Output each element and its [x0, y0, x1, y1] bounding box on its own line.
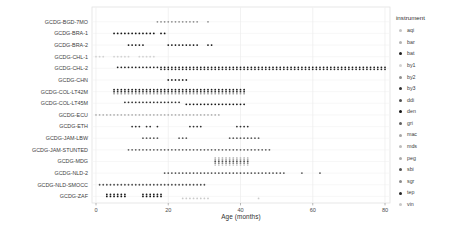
data-point	[247, 68, 249, 70]
data-point	[153, 149, 155, 151]
data-point	[182, 89, 184, 91]
data-point	[131, 114, 133, 116]
data-point	[254, 172, 256, 174]
data-point	[99, 56, 101, 58]
x-tick-label: 80	[382, 207, 388, 213]
data-point	[272, 66, 274, 68]
data-point	[146, 184, 148, 186]
legend-marker-icon	[399, 110, 402, 113]
legend-items: aqibarbatby1by2by3ddidengrimacmdspegsbis…	[394, 25, 458, 211]
data-point	[196, 66, 198, 68]
data-point	[348, 66, 350, 68]
data-point	[160, 196, 162, 198]
data-point	[222, 161, 224, 163]
data-point	[149, 184, 151, 186]
legend-marker-icon	[399, 64, 402, 67]
data-point	[189, 198, 191, 200]
data-point	[207, 68, 209, 70]
legend-item: sgr	[394, 176, 458, 188]
data-point	[312, 68, 314, 70]
data-point	[149, 33, 151, 35]
data-point	[225, 93, 227, 95]
data-point	[171, 68, 173, 70]
data-point	[193, 21, 195, 23]
data-point	[142, 137, 144, 139]
data-point	[269, 66, 271, 68]
data-point	[178, 184, 180, 186]
data-point	[250, 172, 252, 174]
data-point	[290, 68, 292, 70]
data-point	[99, 114, 101, 116]
data-point	[240, 93, 242, 95]
data-point	[203, 66, 205, 68]
data-point	[301, 68, 303, 70]
data-point	[196, 68, 198, 70]
data-point	[142, 184, 144, 186]
data-point	[142, 101, 144, 103]
y-axis-label: GCDG-CHN	[58, 77, 88, 83]
data-point	[164, 91, 166, 93]
data-point	[131, 91, 133, 93]
data-point	[193, 93, 195, 95]
data-point	[160, 89, 162, 91]
data-point	[196, 93, 198, 95]
data-point	[193, 66, 195, 68]
data-point	[182, 184, 184, 186]
data-point	[203, 114, 205, 116]
data-point	[128, 93, 130, 95]
data-point	[232, 68, 234, 70]
data-point	[113, 89, 115, 91]
data-point	[196, 126, 198, 128]
data-point	[160, 184, 162, 186]
data-point	[254, 137, 256, 139]
data-point	[301, 66, 303, 68]
data-point	[171, 79, 173, 81]
data-point	[102, 114, 104, 116]
data-point	[236, 103, 238, 105]
data-point	[323, 66, 325, 68]
data-point	[214, 103, 216, 105]
data-point	[142, 194, 144, 196]
data-point	[135, 44, 137, 46]
y-axis-label: GCDG-COL-LT42M	[41, 89, 89, 95]
data-point	[135, 33, 137, 35]
data-point	[138, 33, 140, 35]
data-point	[308, 66, 310, 68]
data-point	[124, 114, 126, 116]
data-point	[138, 149, 140, 151]
data-point	[225, 157, 227, 159]
data-point	[344, 68, 346, 70]
data-point	[175, 172, 177, 174]
data-point	[380, 68, 382, 70]
data-point	[157, 91, 159, 93]
data-point	[178, 114, 180, 116]
data-point	[203, 198, 205, 200]
data-point	[326, 68, 328, 70]
y-axis-label: GCDG-COL-LT45M	[41, 100, 89, 106]
data-point	[203, 184, 205, 186]
legend-item-label: aqi	[407, 28, 414, 33]
data-point	[247, 157, 249, 159]
legend-marker-icon	[399, 180, 402, 183]
data-point	[240, 172, 242, 174]
data-point	[211, 89, 213, 91]
data-point	[236, 149, 238, 151]
data-point	[146, 196, 148, 198]
data-point	[207, 91, 209, 93]
data-point	[117, 93, 119, 95]
legend-item: mac	[394, 129, 458, 141]
data-point	[189, 114, 191, 116]
data-point	[240, 159, 242, 161]
data-point	[117, 114, 119, 116]
data-point	[243, 126, 245, 128]
data-point	[222, 159, 224, 161]
data-point	[269, 68, 271, 70]
data-point	[128, 33, 130, 35]
legend-item: aqi	[394, 25, 458, 37]
data-point	[117, 196, 119, 198]
data-point	[178, 44, 180, 46]
data-point	[207, 198, 209, 200]
legend-item-label: by2	[407, 75, 416, 80]
data-point	[189, 126, 191, 128]
data-point	[131, 44, 133, 46]
